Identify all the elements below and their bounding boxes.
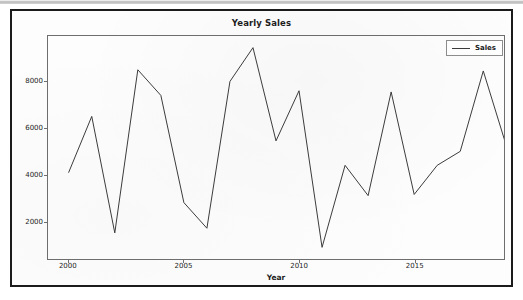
y-tick-label: 8000	[25, 77, 43, 85]
y-tick-label: 4000	[25, 171, 43, 179]
window-top-edge	[0, 0, 523, 4]
figure-window: Yearly Sales 2000400060008000 2000200520…	[0, 0, 523, 300]
y-axis-tick-labels: 2000400060008000	[12, 35, 43, 260]
y-tick-mark	[44, 175, 47, 176]
chart-legend[interactable]: Sales	[446, 40, 503, 56]
figure-frame: Yearly Sales 2000400060008000 2000200520…	[10, 9, 513, 287]
line-series-svg	[48, 36, 504, 259]
x-tick-label: 2005	[175, 262, 193, 270]
x-tick-mark	[299, 260, 300, 263]
series-sales-line	[69, 48, 504, 248]
x-tick-mark	[415, 260, 416, 263]
x-tick-label: 2015	[406, 262, 424, 270]
legend-label-sales: Sales	[475, 44, 496, 52]
y-tick-mark	[44, 81, 47, 82]
y-tick-label: 6000	[25, 124, 43, 132]
x-tick-label: 2010	[290, 262, 308, 270]
figure-canvas: Yearly Sales 2000400060008000 2000200520…	[12, 11, 511, 285]
x-tick-mark	[68, 260, 69, 263]
y-tick-label: 2000	[25, 218, 43, 226]
y-tick-mark	[44, 128, 47, 129]
chart-title: Yearly Sales	[12, 18, 511, 28]
x-axis-label: Year	[47, 273, 505, 282]
x-tick-mark	[183, 260, 184, 263]
plot-area[interactable]	[47, 35, 505, 260]
x-tick-label: 2000	[59, 262, 77, 270]
y-tick-mark	[44, 222, 47, 223]
legend-line-swatch	[452, 48, 470, 49]
